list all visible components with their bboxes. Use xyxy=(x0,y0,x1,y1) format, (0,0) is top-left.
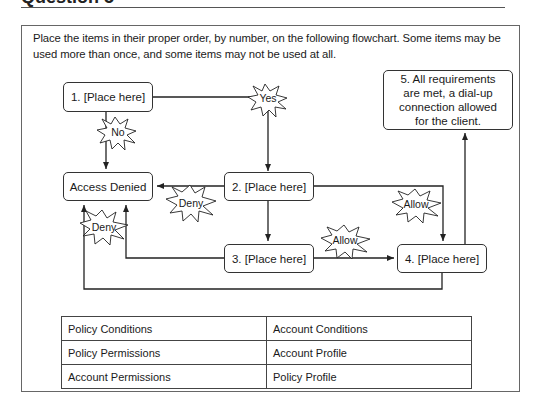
label-yes: Yes xyxy=(259,92,276,104)
node-access-denied: Access Denied xyxy=(63,172,153,201)
node-2-drop-target[interactable]: 2. [Place here] xyxy=(224,172,314,201)
label-allow-3: Allow xyxy=(332,234,358,246)
node-3-drop-target[interactable]: 3. [Place here] xyxy=(224,244,314,273)
option-item[interactable]: Policy Profile xyxy=(267,365,472,389)
option-item[interactable]: Policy Conditions xyxy=(62,317,267,341)
label-no: No xyxy=(111,126,125,138)
option-item[interactable]: Policy Permissions xyxy=(62,341,267,365)
options-row: Account Permissions Policy Profile xyxy=(62,365,472,389)
label-allow-2: Allow xyxy=(403,198,429,210)
option-item[interactable]: Account Profile xyxy=(267,341,472,365)
node-5-result: 5. All requirements are met, a dial-up c… xyxy=(383,70,513,130)
label-deny-3: Deny xyxy=(92,221,117,233)
option-item[interactable]: Account Permissions xyxy=(62,365,267,389)
node-1-drop-target[interactable]: 1. [Place here] xyxy=(63,82,153,112)
options-row: Policy Permissions Account Profile xyxy=(62,341,472,365)
option-item[interactable]: Account Conditions xyxy=(267,317,472,341)
options-row: Policy Conditions Account Conditions xyxy=(62,317,472,341)
answer-options-table: Policy Conditions Account Conditions Pol… xyxy=(61,316,472,389)
node-4-drop-target[interactable]: 4. [Place here] xyxy=(397,244,487,273)
label-deny-2: Deny xyxy=(179,197,204,209)
